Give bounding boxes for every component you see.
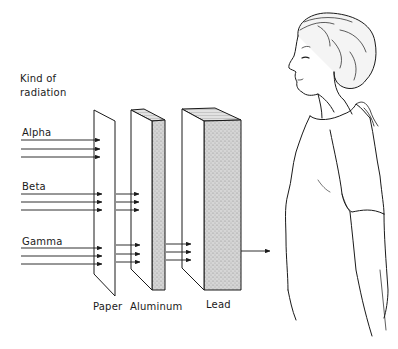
person-figure — [286, 13, 389, 336]
label-paper: Paper — [93, 301, 122, 313]
header-line2: radiation — [20, 87, 66, 99]
label-alpha: Alpha — [22, 127, 51, 139]
lead-barrier — [182, 108, 241, 290]
alpha-arrows — [21, 140, 100, 157]
header-line1: Kind of — [20, 73, 56, 85]
label-beta: Beta — [22, 181, 46, 193]
label-aluminum: Aluminum — [130, 301, 183, 313]
label-gamma: Gamma — [22, 236, 63, 248]
label-lead: Lead — [206, 299, 231, 311]
paper-barrier — [94, 110, 115, 296]
beta-arrows — [21, 194, 139, 210]
aluminum-barrier — [131, 109, 165, 290]
